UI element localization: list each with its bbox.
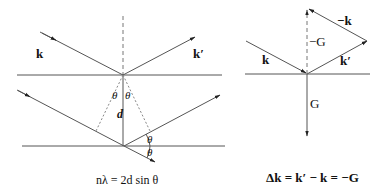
label-d: d — [117, 107, 124, 121]
bragg-law-caption: nλ = 2d sin θ — [96, 173, 159, 187]
incident-ray-lower — [17, 90, 124, 146]
label-k-prime: k′ — [193, 46, 204, 61]
label-G: G — [310, 96, 319, 111]
label-theta-left: θ — [112, 89, 118, 101]
label-k: k — [36, 46, 44, 61]
incident-arrow-upper-icon — [42, 33, 56, 40]
diffraction-diagram: k k′ θ θ d θ θ nλ = 2d sin θ k k′ −k −G … — [0, 0, 381, 194]
vector-diagram: k k′ −k −G G Δk = k′ − k = −G — [245, 9, 370, 185]
label-k-prime-right: k′ — [340, 53, 351, 68]
label-k-right: k — [262, 52, 270, 67]
label-theta-lower: θ — [147, 146, 153, 158]
path-diff-dotted-right — [123, 75, 150, 131]
incident-arrow-lower-icon — [18, 91, 30, 97]
path-diff-dotted-left — [96, 75, 123, 131]
reflected-ray-lower — [124, 95, 220, 146]
vector-k — [246, 41, 306, 73]
label-theta-upper: θ — [147, 133, 153, 145]
bragg-diagram: k k′ θ θ d θ θ nλ = 2d sin θ — [17, 16, 225, 187]
label-neg-G: −G — [309, 34, 326, 49]
reflected-ray-upper — [123, 37, 195, 75]
label-neg-k: −k — [337, 13, 352, 28]
label-theta-right: θ — [125, 89, 131, 101]
momentum-transfer-caption: Δk = k′ − k = −G — [266, 170, 359, 185]
